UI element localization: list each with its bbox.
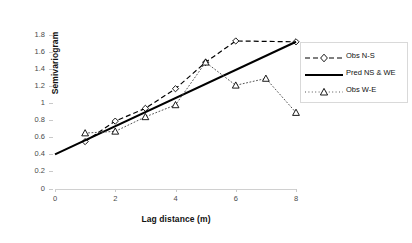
data-point-marker (172, 102, 179, 108)
series-line (55, 42, 296, 155)
chart-legend: Obs N-S Pred NS & WE Obs W-E (300, 42, 408, 103)
legend-label-pred: Pred NS & WE (344, 68, 396, 77)
legend-key-solid (304, 67, 344, 79)
legend-item-pred: Pred NS & WE (304, 64, 404, 81)
legend-label-obs-we: Obs W-E (344, 85, 376, 94)
data-point-marker (82, 130, 89, 136)
series-obs-w-e (82, 59, 300, 136)
data-point-marker (262, 75, 269, 81)
plot-area (0, 0, 412, 243)
data-point-marker (232, 82, 239, 88)
semivariogram-chart: Semivariogram 00.20.40.60.811.21.41.61.8… (0, 0, 412, 243)
legend-key-dotted-triangle (304, 84, 344, 96)
legend-item-obs-we: Obs W-E (304, 81, 404, 98)
series-pred-ns-we (55, 42, 296, 155)
x-axis-title: Lag distance (m) (55, 214, 297, 224)
legend-label-obs-ns: Obs N-S (344, 51, 375, 60)
legend-item-obs-ns: Obs N-S (304, 47, 404, 64)
legend-key-dashed-diamond (304, 50, 344, 62)
